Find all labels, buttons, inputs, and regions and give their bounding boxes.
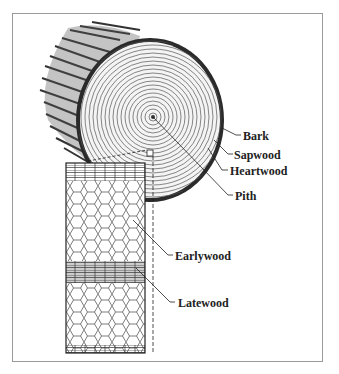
label-bark: Bark xyxy=(243,130,269,142)
label-latewood: Latewood xyxy=(178,297,229,309)
wood-cell-block xyxy=(66,163,145,353)
label-earlywood: Earlywood xyxy=(175,250,231,262)
wood-anatomy-diagram: Bark Sapwood Heartwood Pith Earlywood La… xyxy=(0,0,339,374)
label-heartwood: Heartwood xyxy=(230,165,287,177)
label-pith: Pith xyxy=(235,190,256,202)
log-illustration xyxy=(0,0,339,374)
label-sapwood: Sapwood xyxy=(234,149,281,161)
